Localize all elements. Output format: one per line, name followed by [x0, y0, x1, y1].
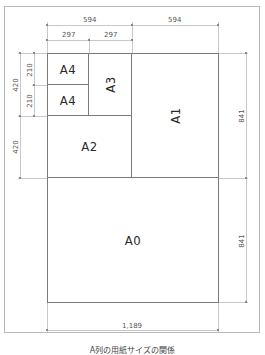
dim-label-841-lower: 841	[238, 234, 246, 247]
tick	[46, 24, 48, 26]
tick	[19, 52, 21, 54]
paper-a0: A0	[47, 177, 219, 303]
dim-label-594-right: 594	[168, 16, 181, 24]
dim-label-594-left: 594	[83, 16, 96, 24]
tick	[245, 177, 247, 179]
guide-line	[218, 178, 248, 179]
tick	[19, 115, 21, 117]
guide-line	[47, 302, 48, 332]
guide-line	[18, 178, 47, 179]
tick	[131, 24, 133, 26]
paper-label-a0: A0	[125, 233, 141, 248]
dim-label-841-upper: 841	[238, 109, 246, 122]
paper-a4-bottom: A4	[47, 84, 89, 116]
tick	[19, 177, 21, 179]
dim-label-297-a: 297	[62, 31, 75, 39]
tick	[33, 52, 35, 54]
dimension-line-594-left	[47, 25, 132, 26]
guide-line	[218, 302, 248, 303]
paper-label-a2: A2	[81, 139, 97, 154]
guide-line	[47, 22, 48, 53]
paper-a3: A3	[88, 53, 132, 116]
paper-a2: A2	[47, 115, 132, 178]
paper-label-a4-top: A4	[60, 62, 76, 77]
dimension-line-420-lower	[20, 116, 21, 178]
tick	[33, 84, 35, 86]
tick	[88, 39, 90, 41]
tick	[245, 301, 247, 303]
guide-line	[218, 302, 219, 332]
tick	[131, 39, 133, 41]
paper-label-a3: A3	[103, 76, 118, 92]
tick	[245, 52, 247, 54]
dim-label-210-bottom: 210	[26, 94, 34, 107]
dim-label-420-lower: 420	[12, 140, 20, 153]
tick	[33, 115, 35, 117]
paper-label-a1: A1	[168, 107, 183, 123]
dimension-line-420-outer	[20, 53, 21, 116]
paper-a1: A1	[131, 53, 219, 178]
tick	[46, 39, 48, 41]
guide-line	[132, 22, 133, 53]
dimension-line-594-right	[132, 25, 218, 26]
dimension-line-1189	[47, 330, 218, 331]
diagram-caption: A列の用紙サイズの関係	[0, 344, 265, 355]
tick	[217, 329, 219, 331]
tick	[46, 329, 48, 331]
paper-a4-top: A4	[47, 53, 89, 85]
dim-label-420-outer: 420	[12, 78, 20, 91]
tick	[217, 24, 219, 26]
guide-line	[218, 53, 248, 54]
dim-label-210-top: 210	[26, 63, 34, 76]
dim-label-297-b: 297	[104, 31, 117, 39]
guide-line	[218, 22, 219, 53]
paper-label-a4-bottom: A4	[60, 93, 76, 108]
dim-label-1189: 1,189	[122, 322, 142, 330]
